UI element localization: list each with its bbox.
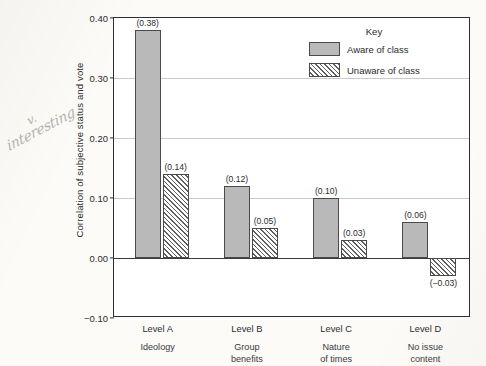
y-axis-tick-mark [110, 317, 114, 318]
x-axis-group-sublabel: Natureof times [292, 341, 381, 366]
x-axis-group-label: Level AIdeology [113, 323, 202, 353]
bar-value-label: (0.14) [152, 162, 200, 172]
y-axis-tick-mark [110, 197, 114, 198]
x-axis-group-label: Level DNo issuecontent [381, 323, 470, 366]
legend-swatch-unaware [309, 63, 340, 77]
legend-item-aware: Aware of class [309, 42, 457, 56]
y-axis-tick-mark [110, 257, 114, 258]
scanned-page-background: v. interesting Correlation of subjective… [0, 0, 486, 366]
bar-aware-level-a [135, 30, 161, 258]
x-axis-group-sublabel: No issuecontent [381, 341, 470, 366]
y-axis-tick-mark [110, 137, 114, 138]
y-axis-tick-label: 0.30 [90, 73, 109, 84]
x-axis-group-name: Level A [142, 324, 173, 334]
y-axis-tick-label: 0.20 [90, 133, 109, 144]
bar-value-label: (0.10) [302, 186, 350, 196]
gridline [114, 138, 469, 139]
y-axis-tick-label: −0.10 [84, 313, 108, 324]
x-axis-group-name: Level D [410, 324, 442, 334]
legend-title: Key [309, 26, 457, 37]
chart-legend: Key Aware of class Unaware of class [309, 26, 457, 84]
bar-value-label: (0.38) [124, 18, 172, 28]
handwritten-annotation-line1: v. [25, 110, 39, 128]
x-axis-group-name: Level B [231, 324, 262, 334]
bar-value-label: (0.05) [241, 216, 289, 226]
y-axis-tick-label: 0.10 [90, 193, 109, 204]
bar-value-label: (0.12) [213, 174, 261, 184]
legend-label-aware: Aware of class [347, 44, 409, 55]
legend-swatch-aware [309, 42, 340, 56]
x-axis-group-name: Level C [320, 324, 352, 334]
bar-value-label: (0.03) [330, 228, 378, 238]
y-axis-tick-label: 0.40 [90, 13, 109, 24]
handwritten-annotation-line2: interesting [5, 103, 77, 154]
bar-unaware-level-a [163, 174, 189, 258]
x-axis-group-label: Level CNatureof times [292, 323, 381, 366]
bar-unaware-level-c [341, 240, 367, 258]
legend-item-unaware: Unaware of class [309, 63, 457, 77]
bar-unaware-level-d [430, 258, 456, 276]
chart-plot-frame: 0.400.300.200.100.00−0.10(0.38)(0.14)(0.… [113, 17, 470, 317]
x-axis-group-label: Level BGroupbenefits [202, 323, 291, 366]
legend-label-unaware: Unaware of class [347, 65, 420, 76]
x-axis-group-sublabel: Ideology [113, 341, 202, 354]
bar-aware-level-d [402, 222, 428, 258]
y-axis-tick-label: 0.00 [90, 253, 109, 264]
y-axis-title: Correlation of subjective status and vot… [72, 0, 88, 300]
bar-value-label: (−0.03) [419, 278, 467, 288]
y-axis-tick-mark [110, 77, 114, 78]
zero-line [114, 258, 469, 259]
bar-unaware-level-b [252, 228, 278, 258]
y-axis-tick-mark [110, 17, 114, 18]
bar-value-label: (0.06) [391, 210, 439, 220]
x-axis-group-sublabel: Groupbenefits [202, 341, 291, 366]
